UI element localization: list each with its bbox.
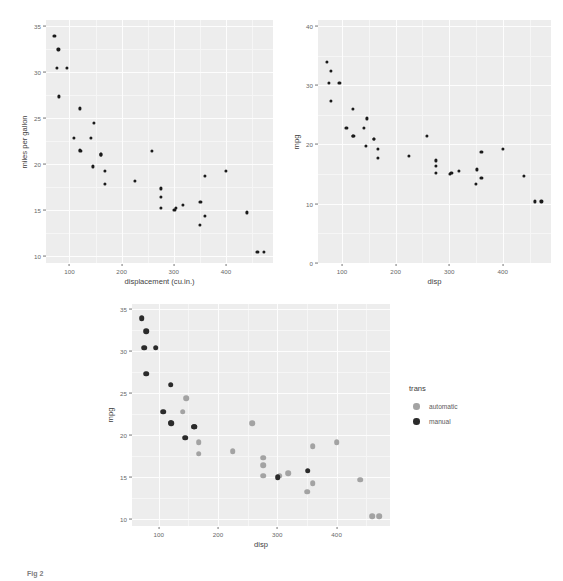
y-axis-tick xyxy=(129,309,131,310)
gridline-minor-y xyxy=(46,233,273,234)
data-point xyxy=(457,170,460,173)
y-axis-tick xyxy=(43,71,45,72)
data-point xyxy=(329,100,332,103)
data-point-automatic xyxy=(304,489,310,495)
data-point xyxy=(533,200,536,203)
data-point-automatic xyxy=(377,513,383,519)
data-point xyxy=(329,69,332,72)
data-point xyxy=(435,164,438,167)
gridline-minor-y xyxy=(132,414,390,415)
gridline-major-x xyxy=(122,20,123,263)
data-point xyxy=(204,174,207,177)
gridline-minor-y xyxy=(132,330,390,331)
gridline-minor-y xyxy=(318,174,551,175)
y-axis-tick xyxy=(129,477,131,478)
gridline-major-x xyxy=(277,304,278,526)
data-point-automatic xyxy=(260,463,266,469)
gridline-minor-y xyxy=(46,95,273,96)
legend-key-manual-icon xyxy=(409,414,424,429)
gridline-major-x xyxy=(159,304,160,526)
y-axis-tick-label: 10 xyxy=(120,516,127,523)
data-point xyxy=(256,250,259,253)
x-axis-tick-label: 300 xyxy=(169,268,180,275)
plot-panel-1 xyxy=(46,20,273,263)
data-point-manual xyxy=(141,345,147,351)
x-axis-tick xyxy=(173,264,174,266)
data-point xyxy=(198,224,201,227)
x-axis-tick xyxy=(342,264,343,266)
legend-trans: trans automatic manual xyxy=(409,384,458,429)
x-axis-tick-label: 200 xyxy=(116,268,127,275)
data-point xyxy=(345,126,348,129)
data-point xyxy=(373,137,376,140)
data-point xyxy=(78,107,81,110)
y-axis-tick-label: 25 xyxy=(34,114,41,121)
data-point xyxy=(377,148,380,151)
data-point-automatic xyxy=(310,480,316,486)
x-axis-title-3: disp xyxy=(254,540,268,549)
gridline-major-x xyxy=(174,20,175,263)
data-point xyxy=(338,81,341,84)
data-point xyxy=(362,126,365,129)
y-axis-tick xyxy=(315,263,317,264)
data-point-manual xyxy=(168,382,174,388)
scatter-plot-disp-mpg: mpg disp 010203040100200300400 xyxy=(285,10,563,290)
data-point-manual xyxy=(153,345,159,351)
gridline-major-y xyxy=(318,204,551,205)
data-point-automatic xyxy=(180,409,186,415)
x-axis-tick-label: 400 xyxy=(221,268,232,275)
gridline-major-y xyxy=(132,435,390,436)
data-point-automatic xyxy=(334,439,340,445)
data-point-manual xyxy=(275,474,281,480)
y-axis-title-3: mpg xyxy=(106,408,115,423)
data-point xyxy=(55,66,58,69)
data-point xyxy=(57,48,60,51)
x-axis-tick-label: 100 xyxy=(64,268,75,275)
data-point-manual xyxy=(143,371,149,377)
data-point xyxy=(103,182,106,185)
data-point-manual xyxy=(191,424,197,430)
plot-panel-3 xyxy=(132,304,390,526)
y-axis-tick-label: 15 xyxy=(120,474,127,481)
x-axis-tick-label: 200 xyxy=(390,268,401,275)
x-axis-tick xyxy=(277,527,278,529)
gridline-major-y xyxy=(318,85,551,86)
legend-label-automatic: automatic xyxy=(429,403,458,410)
gridline-minor-y xyxy=(132,498,390,499)
data-point-manual xyxy=(305,468,311,474)
x-axis-tick-label: 300 xyxy=(444,268,455,275)
data-point xyxy=(262,250,265,253)
y-axis-tick-label: 35 xyxy=(34,22,41,29)
x-axis-tick-label: 100 xyxy=(153,531,164,538)
x-axis-tick xyxy=(158,527,159,529)
data-point xyxy=(160,195,163,198)
y-axis-tick xyxy=(315,144,317,145)
y-axis-tick xyxy=(315,85,317,86)
data-point xyxy=(480,151,483,154)
y-axis-tick-label: 10 xyxy=(306,200,313,207)
y-axis-tick xyxy=(43,255,45,256)
x-axis-tick xyxy=(395,264,396,266)
y-axis-tick-label: 0 xyxy=(309,260,313,267)
legend-item-manual[interactable]: manual xyxy=(409,414,458,429)
y-axis-tick xyxy=(43,209,45,210)
legend-dot-manual xyxy=(413,418,420,425)
data-point xyxy=(540,200,543,203)
gridline-major-y xyxy=(318,26,551,27)
data-point xyxy=(407,154,410,157)
y-axis-tick-label: 20 xyxy=(120,432,127,439)
legend-key-automatic-icon xyxy=(409,399,424,414)
data-point xyxy=(377,156,380,159)
data-point xyxy=(501,148,504,151)
x-axis-tick-label: 400 xyxy=(497,268,508,275)
gridline-major-y xyxy=(132,309,390,310)
data-point-automatic xyxy=(250,421,256,427)
data-point xyxy=(99,153,102,156)
gridline-minor-y xyxy=(132,372,390,373)
x-axis-tick xyxy=(121,264,122,266)
data-point-automatic xyxy=(196,451,202,457)
data-point-manual xyxy=(168,421,174,427)
y-axis-tick-label: 15 xyxy=(34,206,41,213)
legend-item-automatic[interactable]: automatic xyxy=(409,399,458,414)
data-point xyxy=(79,149,82,152)
